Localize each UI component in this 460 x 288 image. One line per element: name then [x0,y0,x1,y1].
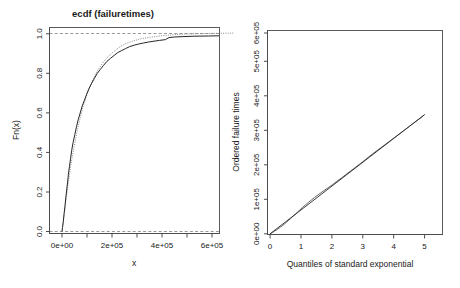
ecdf-title: ecdf (failuretimes) [72,8,154,19]
ecdf-ytick-1: 0.2 [35,186,44,198]
qq-svg: 0e+00 1e+05 2e+05 3e+05 4e+05 5e+05 6e+0… [230,0,460,288]
ecdf-xtick-2: 4e+05 [151,241,174,250]
ecdf-y-ticks [46,34,50,232]
qq-ytick-3: 3e+05 [252,119,261,142]
ecdf-empirical-curve [62,36,219,232]
ecdf-panel: ecdf (failuretimes) 0.0 [0,0,230,288]
qq-panel: 0e+00 1e+05 2e+05 3e+05 4e+05 5e+05 6e+0… [230,0,460,288]
ecdf-x-axis-label: x [132,258,137,268]
qq-xtick-5: 5 [422,242,427,251]
qq-y-axis-label: Ordered failure times [231,92,241,171]
qq-ytick-4: 4e+05 [252,84,261,107]
ecdf-ytick-2: 0.4 [35,146,44,158]
ecdf-fitted-curve [62,33,235,231]
qq-y-ticks [264,33,268,234]
ecdf-y-axis-label: Fn(x) [11,120,21,140]
qq-ytick-2: 2e+05 [252,153,261,176]
qq-xtick-2: 2 [330,242,335,251]
qq-ytick-6: 6e+05 [252,21,261,44]
qq-x-ticks [270,235,425,239]
ecdf-xtick-1: 2e+05 [101,241,124,250]
ecdf-xtick-3: 6e+05 [201,241,224,250]
qq-reference-line [270,115,425,234]
qq-xtick-4: 4 [391,242,396,251]
ecdf-ytick-0: 0.0 [35,225,44,237]
qq-xtick-1: 1 [299,242,304,251]
qq-xtick-3: 3 [361,242,366,251]
qq-ytick-1: 1e+05 [252,188,261,211]
qq-ytick-5: 5e+05 [252,50,261,73]
qq-plot-box [268,31,443,235]
ecdf-x-ticks [62,234,212,238]
ecdf-ytick-4: 0.8 [35,67,44,79]
ecdf-svg: ecdf (failuretimes) 0.0 [0,0,230,288]
qq-xtick-0: 0 [268,242,273,251]
qq-ytick-0: 0e+00 [252,222,261,245]
r-graphics-figure: ecdf (failuretimes) 0.0 [0,0,460,288]
ecdf-xtick-0: 0e+00 [51,241,74,250]
ecdf-plot-box [50,28,220,234]
ecdf-ytick-3: 0.6 [35,107,44,119]
qq-x-axis-label: Quantiles of standard exponential [287,259,414,269]
ecdf-ytick-5: 1.0 [35,28,44,40]
